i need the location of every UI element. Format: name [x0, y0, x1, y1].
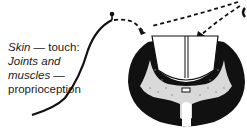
dashed-pathway-top [152, 2, 238, 26]
offscreen-element-icon [243, 8, 245, 17]
spinal-cord-diagram [0, 0, 247, 128]
sensory-nerve-fiber [32, 20, 112, 115]
receptor-ending-icon [110, 12, 115, 20]
dashed-pathway-right [200, 6, 240, 36]
spinal-cord-cross-section [128, 36, 245, 126]
central-canal [182, 88, 190, 92]
